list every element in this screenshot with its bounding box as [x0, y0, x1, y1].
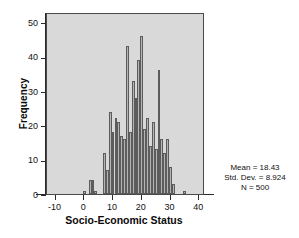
x-tick: [55, 195, 56, 200]
y-tick-label: 40: [8, 52, 38, 62]
y-tick: [41, 92, 46, 93]
stat-mean: Mean = 18.43: [213, 163, 297, 173]
histogram-bar: [83, 191, 86, 194]
x-tick: [83, 195, 84, 200]
y-tick-label: 30: [8, 87, 38, 97]
histogram-figure: Frequency 01020304050 -10010203040 Socio…: [0, 0, 299, 238]
y-tick-label: 10: [8, 155, 38, 165]
y-tick-label: 20: [8, 121, 38, 131]
x-tick: [141, 195, 142, 200]
statistics-annotation: Mean = 18.43 Std. Dev. = 8.924 N = 500: [213, 163, 297, 193]
y-tick: [41, 126, 46, 127]
x-tick: [198, 195, 199, 200]
y-tick: [41, 58, 46, 59]
x-tick-label: 40: [181, 202, 215, 212]
stat-std-dev: Std. Dev. = 8.924: [213, 173, 297, 183]
x-tick: [170, 195, 171, 200]
histogram-bar: [183, 191, 186, 194]
y-tick: [41, 23, 46, 24]
y-tick-label: 0: [8, 190, 38, 200]
y-tick-label: 50: [8, 18, 38, 28]
y-tick: [41, 195, 46, 196]
histogram-bar: [172, 184, 175, 194]
stat-n: N = 500: [213, 183, 297, 193]
y-axis-label: Frequency: [18, 54, 29, 154]
x-tick: [112, 195, 113, 200]
y-tick: [41, 161, 46, 162]
plot-area: [46, 13, 204, 195]
histogram-bar: [94, 191, 97, 194]
histogram-bars: [47, 14, 203, 194]
x-axis-label: Socio-Economic Status: [40, 214, 208, 226]
